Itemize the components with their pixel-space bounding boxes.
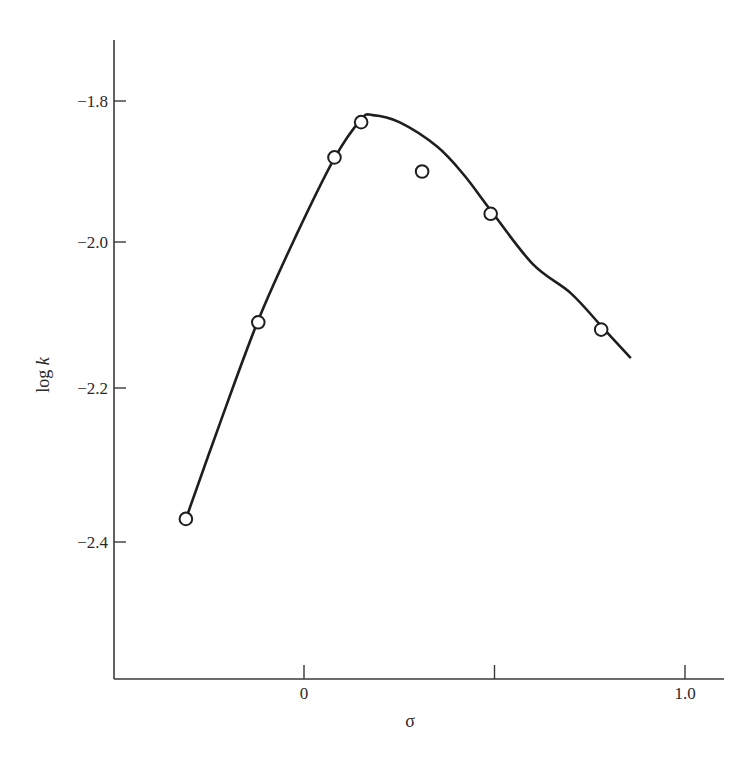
y-axis-label-plain: log bbox=[33, 365, 53, 393]
data-point bbox=[328, 151, 341, 164]
y-tick-label: −1.8 bbox=[77, 92, 108, 111]
x-tick-label: 0 bbox=[300, 684, 309, 703]
data-point bbox=[416, 165, 429, 178]
data-point bbox=[180, 513, 193, 526]
fitted-curve-layer bbox=[186, 114, 630, 519]
chart-canvas: −1.8−2.0−2.2−2.4 01.0 σ log k bbox=[0, 0, 755, 759]
y-tick-label: −2.4 bbox=[77, 533, 108, 552]
data-points-layer bbox=[180, 116, 608, 525]
data-point bbox=[252, 316, 265, 329]
data-point bbox=[484, 208, 497, 221]
y-axis-label: log k bbox=[33, 356, 53, 393]
y-axis-label-italic: k bbox=[33, 356, 53, 365]
data-point bbox=[595, 323, 608, 336]
y-tick-label: −2.2 bbox=[77, 379, 108, 398]
chart: −1.8−2.0−2.2−2.4 01.0 σ log k bbox=[0, 0, 755, 759]
fitted-curve bbox=[186, 114, 630, 519]
x-tick-label: 1.0 bbox=[674, 684, 695, 703]
x-axis-ticks: 01.0 bbox=[300, 665, 696, 703]
y-axis-ticks: −1.8−2.0−2.2−2.4 bbox=[77, 92, 126, 552]
axes bbox=[114, 40, 724, 679]
x-axis-label: σ bbox=[405, 711, 415, 731]
y-tick-label: −2.0 bbox=[77, 233, 108, 252]
data-point bbox=[355, 116, 368, 129]
